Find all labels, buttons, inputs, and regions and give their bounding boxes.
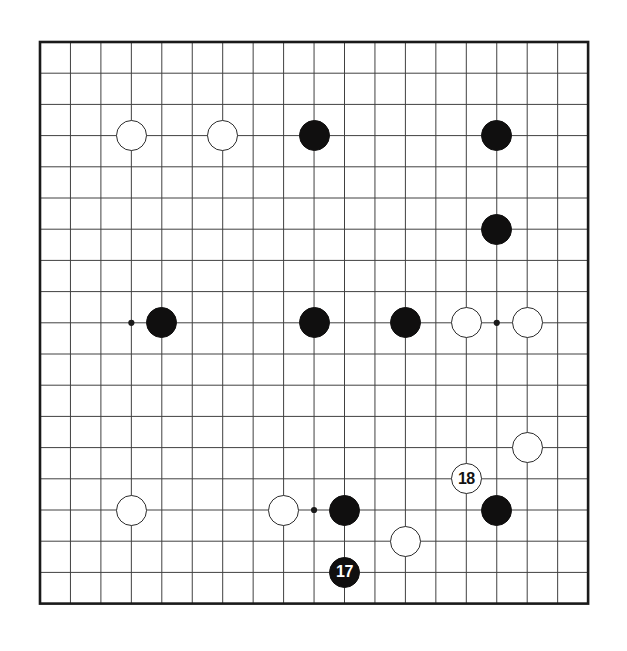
black-stone[interactable] [299,307,330,338]
black-stone[interactable] [481,214,512,245]
black-stone[interactable] [329,495,360,526]
black-stone[interactable] [299,120,330,151]
black-stone[interactable] [481,495,512,526]
go-board-figure: 1817 [0,0,627,651]
star-point [494,320,500,326]
star-point [311,507,317,513]
white-stone-move-18[interactable]: 18 [451,463,482,494]
white-stone[interactable] [116,120,147,151]
white-stone[interactable] [390,526,421,557]
move-number-label: 18 [458,471,475,487]
white-stone[interactable] [268,495,299,526]
white-stone[interactable] [116,495,147,526]
white-stone[interactable] [512,432,543,463]
star-point [128,320,134,326]
move-number-label: 17 [336,564,353,580]
white-stone[interactable] [451,307,482,338]
black-stone-move-17[interactable]: 17 [329,557,360,588]
white-stone[interactable] [512,307,543,338]
black-stone[interactable] [390,307,421,338]
